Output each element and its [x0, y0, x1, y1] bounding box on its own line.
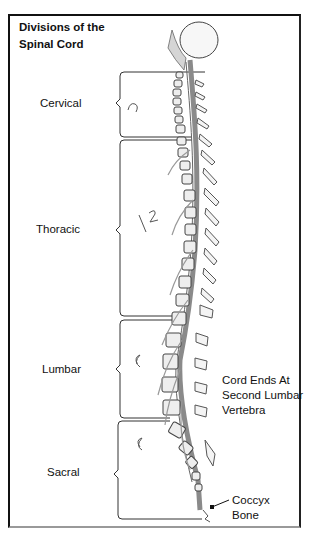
- cord-end-line-3: Vertebra: [222, 403, 303, 418]
- label-lumbar: Lumbar: [42, 363, 81, 375]
- label-sacral: Sacral: [47, 466, 80, 478]
- cord-end-line-2: Second Lumbar: [222, 388, 303, 403]
- cord-end-line-1: Cord Ends At: [222, 373, 303, 388]
- coccyx-annotation: Coccyx Bone: [232, 493, 270, 523]
- coccyx-line-2: Bone: [232, 508, 270, 523]
- label-thoracic: Thoracic: [36, 223, 80, 235]
- cord-end-annotation: Cord Ends At Second Lumbar Vertebra: [222, 373, 303, 418]
- spine-illustration: [0, 0, 311, 536]
- label-cervical: Cervical: [40, 97, 82, 109]
- coccyx-line-1: Coccyx: [232, 493, 270, 508]
